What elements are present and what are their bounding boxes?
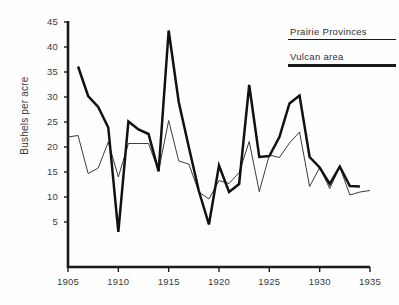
y-tick-label: 5 (36, 216, 58, 227)
y-tick-label: 45 (36, 16, 58, 27)
y-tick-label: 40 (36, 41, 58, 52)
y-tick-label: 30 (36, 91, 58, 102)
legend-entry-prairie-provinces: Prairie Provinces (288, 26, 396, 40)
legend-label-vulcan-area: Vulcan area (288, 51, 396, 62)
y-axis-title: Bushels per acre (19, 56, 30, 176)
y-tick-label: 10 (36, 191, 58, 202)
x-tick-label: 1925 (249, 276, 289, 287)
chart-container: 45403530252015105 1905191019151920192519… (0, 0, 399, 305)
legend-swatch-prairie-provinces (288, 39, 396, 40)
x-tick-label: 1930 (300, 276, 340, 287)
x-tick-label: 1920 (199, 276, 239, 287)
x-tick-label: 1910 (98, 276, 138, 287)
x-tick-label: 1915 (149, 276, 189, 287)
legend-label-prairie-provinces: Prairie Provinces (288, 26, 396, 37)
legend-entry-vulcan-area: Vulcan area (288, 51, 396, 67)
y-tick-label: 15 (36, 166, 58, 177)
x-tick-label: 1935 (350, 276, 390, 287)
x-tick-label: 1905 (48, 276, 88, 287)
y-tick-label: 35 (36, 66, 58, 77)
chart-legend: Prairie Provinces Vulcan area (288, 26, 396, 78)
y-tick-label: 20 (36, 141, 58, 152)
y-tick-label: 25 (36, 116, 58, 127)
legend-swatch-vulcan-area (288, 64, 396, 67)
